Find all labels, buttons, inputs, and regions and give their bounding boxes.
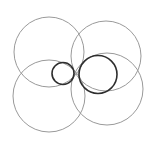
circle-diagram [0, 0, 152, 145]
